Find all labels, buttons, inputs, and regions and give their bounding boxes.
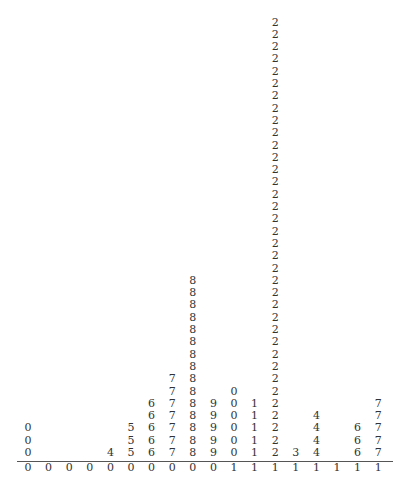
- leaf-digit: 8: [183, 447, 203, 459]
- leaf-digit: 2: [265, 176, 285, 188]
- leaf-digit: 6: [142, 422, 162, 434]
- stem-label: 1: [224, 462, 244, 474]
- leaf-digit: 2: [265, 189, 285, 201]
- leaf-digit: 6: [142, 435, 162, 447]
- stem-label: 0: [121, 462, 141, 474]
- leaf-digit: 2: [265, 299, 285, 311]
- leaf-digit: 2: [265, 312, 285, 324]
- leaf-digit: 8: [183, 312, 203, 324]
- leaf-digit: 2: [265, 78, 285, 90]
- leaf-digit: 8: [183, 275, 203, 287]
- leaf-digit: 4: [306, 410, 326, 422]
- leaf-digit: 1: [245, 435, 265, 447]
- leaf-digit: 1: [245, 447, 265, 459]
- leaf-digit: 2: [265, 152, 285, 164]
- leaf-digit: 2: [265, 213, 285, 225]
- stem-label: 0: [59, 462, 79, 474]
- stem-label: 1: [327, 462, 347, 474]
- leaf-digit: 7: [368, 398, 388, 410]
- leaf-digit: 7: [368, 422, 388, 434]
- stem-label: 0: [183, 462, 203, 474]
- leaf-digit: 6: [348, 447, 368, 459]
- leaf-digit: 8: [183, 349, 203, 361]
- leaf-digit: 6: [348, 435, 368, 447]
- leaf-digit: 2: [265, 398, 285, 410]
- leaf-digit: 2: [265, 140, 285, 152]
- leaf-digit: 2: [265, 127, 285, 139]
- leaf-digit: 2: [265, 410, 285, 422]
- leaf-digit: 4: [306, 422, 326, 434]
- leaf-digit: 2: [265, 324, 285, 336]
- stem-label: 1: [348, 462, 368, 474]
- stem-label: 0: [80, 462, 100, 474]
- leaf-digit: 2: [265, 29, 285, 41]
- leaf-digit: 0: [224, 410, 244, 422]
- leaf-digit: 8: [183, 287, 203, 299]
- leaf-digit: 2: [265, 66, 285, 78]
- stem-label: 0: [100, 462, 120, 474]
- stem-label: 0: [203, 462, 223, 474]
- leaf-digit: 7: [162, 373, 182, 385]
- leaf-digit: 2: [265, 349, 285, 361]
- leaf-digit: 8: [183, 324, 203, 336]
- leaf-digit: 2: [265, 41, 285, 53]
- leaf-digit: 2: [265, 115, 285, 127]
- leaf-digit: 0: [224, 435, 244, 447]
- leaf-digit: 5: [121, 435, 141, 447]
- leaf-digit: 2: [265, 263, 285, 275]
- leaf-digit: 2: [265, 275, 285, 287]
- leaf-digit: 7: [162, 422, 182, 434]
- leaf-digit: 5: [121, 422, 141, 434]
- leaf-digit: 9: [203, 422, 223, 434]
- leaf-digit: 2: [265, 53, 285, 65]
- leaf-digit: 1: [245, 410, 265, 422]
- leaf-digit: 0: [18, 447, 38, 459]
- leaf-digit: 1: [245, 422, 265, 434]
- leaf-digit: 7: [368, 435, 388, 447]
- leaf-digit: 2: [265, 361, 285, 373]
- stem-label: 1: [286, 462, 306, 474]
- dot-plot: 0000000040555066666077777770888888888888…: [0, 0, 410, 490]
- leaf-digit: 2: [265, 447, 285, 459]
- leaf-digit: 7: [162, 398, 182, 410]
- leaf-digit: 2: [265, 226, 285, 238]
- leaf-digit: 2: [265, 386, 285, 398]
- leaf-digit: 6: [348, 422, 368, 434]
- leaf-digit: 7: [368, 410, 388, 422]
- leaf-digit: 6: [142, 447, 162, 459]
- stem-label: 1: [368, 462, 388, 474]
- leaf-digit: 7: [162, 435, 182, 447]
- leaf-digit: 8: [183, 361, 203, 373]
- leaf-digit: 2: [265, 250, 285, 262]
- leaf-digit: 4: [100, 447, 120, 459]
- stem-label: 0: [162, 462, 182, 474]
- stem-label: 0: [142, 462, 162, 474]
- leaf-digit: 4: [306, 447, 326, 459]
- leaf-digit: 6: [142, 410, 162, 422]
- leaf-digit: 8: [183, 422, 203, 434]
- leaf-digit: 2: [265, 164, 285, 176]
- leaf-digit: 8: [183, 336, 203, 348]
- leaf-digit: 7: [162, 447, 182, 459]
- leaf-digit: 2: [265, 373, 285, 385]
- leaf-digit: 2: [265, 201, 285, 213]
- leaf-digit: 0: [224, 386, 244, 398]
- leaf-digit: 9: [203, 410, 223, 422]
- leaf-digit: 2: [265, 90, 285, 102]
- leaf-digit: 1: [245, 398, 265, 410]
- leaf-digit: 2: [265, 435, 285, 447]
- leaf-digit: 7: [368, 447, 388, 459]
- leaf-digit: 2: [265, 238, 285, 250]
- leaf-digit: 0: [224, 398, 244, 410]
- leaf-digit: 3: [286, 447, 306, 459]
- leaf-digit: 7: [162, 386, 182, 398]
- leaf-digit: 0: [224, 447, 244, 459]
- stem-label: 0: [18, 462, 38, 474]
- leaf-digit: 2: [265, 336, 285, 348]
- stem-label: 0: [39, 462, 59, 474]
- leaf-digit: 8: [183, 410, 203, 422]
- leaf-digit: 4: [306, 435, 326, 447]
- stem-label: 1: [245, 462, 265, 474]
- leaf-digit: 8: [183, 299, 203, 311]
- leaf-digit: 8: [183, 435, 203, 447]
